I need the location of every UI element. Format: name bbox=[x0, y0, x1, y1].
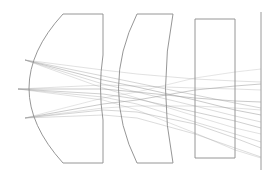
light-ray bbox=[25, 115, 261, 157]
ray-bundles bbox=[18, 60, 261, 158]
optical-diagram-canvas bbox=[0, 0, 274, 176]
light-ray bbox=[18, 89, 261, 128]
lens-1 bbox=[29, 14, 103, 163]
light-ray bbox=[25, 110, 261, 148]
lens-diagram bbox=[0, 0, 274, 176]
light-ray bbox=[25, 60, 261, 108]
light-ray bbox=[25, 106, 261, 118]
light-ray bbox=[25, 60, 261, 115]
